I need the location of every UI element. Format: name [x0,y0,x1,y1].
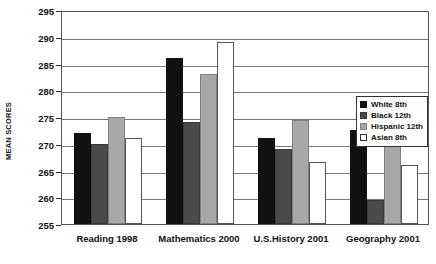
bar [91,144,108,224]
bar [200,74,217,224]
y-axis-tick-label: 290 [18,32,54,43]
legend-swatch-icon [360,101,367,108]
legend-item-label: Black 12th [371,110,411,121]
y-axis-tick-mark [56,38,61,39]
legend-item: Hispanic 12th [360,121,423,132]
bar [125,138,142,224]
legend-item-label: White 8th [371,99,407,110]
bar [275,149,292,224]
x-axis-tick-label: Geography 2001 [346,233,420,244]
bar [217,42,234,224]
bar [166,58,183,224]
y-axis-tick-label: 265 [18,166,54,177]
y-axis-tick-label: 280 [18,86,54,97]
x-axis-tick-label: Reading 1998 [76,233,137,244]
x-axis-tick-label: U.S.History 2001 [254,233,329,244]
y-axis-tick-label: 270 [18,139,54,150]
bar-group [62,12,154,224]
y-axis-tick-mark [56,118,61,119]
y-axis-tick-label: 295 [18,6,54,17]
bar [292,120,309,224]
y-axis-tick-label: 255 [18,220,54,231]
y-axis-title: MEAN SCORES [2,96,16,166]
y-axis-tick-mark [56,91,61,92]
bar-chart: MEAN SCORES White 8thBlack 12thHispanic … [0,0,436,264]
y-axis-tick-label: 275 [18,113,54,124]
y-axis-tick-label: 260 [18,193,54,204]
y-axis-tick-mark [56,11,61,12]
bar [74,133,91,224]
legend-item-label: Hispanic 12th [371,121,423,132]
y-axis-tick-mark [56,225,61,226]
bar [384,146,401,224]
legend-item: Black 12th [360,110,423,121]
y-axis-tick-mark [56,198,61,199]
y-axis-tick-label: 285 [18,59,54,70]
legend-swatch-icon [360,123,367,130]
bar [401,165,418,224]
bar-group [154,12,246,224]
legend-swatch-icon [360,134,367,141]
bar [367,200,384,224]
bar [183,122,200,224]
legend-swatch-icon [360,112,367,119]
bar [309,162,326,224]
y-axis-tick-mark [56,145,61,146]
y-axis-tick-mark [56,65,61,66]
legend-item: White 8th [360,99,423,110]
x-axis-tick-label: Mathematics 2000 [158,233,239,244]
legend-item: Asian 8th [360,132,423,143]
bar-group [246,12,338,224]
legend-item-label: Asian 8th [371,132,407,143]
y-axis-tick-mark [56,172,61,173]
chart-legend: White 8thBlack 12thHispanic 12thAsian 8t… [356,96,428,147]
bar [108,117,125,224]
bar [258,138,275,224]
